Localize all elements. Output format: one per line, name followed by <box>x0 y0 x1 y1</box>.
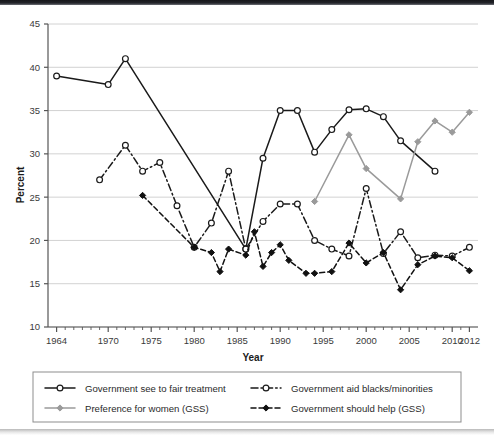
data-point-0-10 <box>363 106 369 112</box>
data-point-2-0 <box>312 198 318 204</box>
y-tick-label-15: 15 <box>29 278 40 289</box>
scan-artifact-top-band <box>0 0 494 5</box>
series-line-2 <box>315 112 470 201</box>
chart-figure: 1015202530354045 19641970197519801985199… <box>0 0 494 435</box>
x-tick-label-1990: 1990 <box>270 335 291 346</box>
data-point-0-11 <box>381 114 387 120</box>
data-point-3-4 <box>226 246 232 252</box>
legend-label-0: Government see to fair treatment <box>85 383 226 394</box>
data-point-1-7 <box>226 168 232 174</box>
y-axis-title: Percent <box>15 166 26 203</box>
data-point-0-2 <box>123 56 129 62</box>
legend-marker-1 <box>263 385 269 391</box>
data-point-0-9 <box>346 107 352 113</box>
data-point-1-9 <box>260 218 266 224</box>
data-point-3-5 <box>243 252 249 258</box>
data-point-1-11 <box>295 201 301 207</box>
x-axis-title: Year <box>242 352 263 363</box>
x-tick-labels-group: 1964197019751980198519901995200020052010… <box>46 335 480 346</box>
data-point-1-18 <box>415 255 421 261</box>
legend-group: Government see to fair treatmentGovernme… <box>33 372 461 422</box>
x-tick-label-2012: 2012 <box>459 335 480 346</box>
data-point-0-1 <box>105 82 111 88</box>
data-point-0-8 <box>329 127 335 133</box>
data-point-1-17 <box>398 229 404 235</box>
data-point-0-6 <box>295 108 301 114</box>
data-point-0-4 <box>260 155 266 161</box>
y-tick-label-35: 35 <box>29 105 40 116</box>
data-point-0-0 <box>54 73 60 79</box>
data-point-3-6 <box>251 229 257 235</box>
legend-box <box>33 372 461 422</box>
x-tick-label-2005: 2005 <box>399 335 420 346</box>
y-tick-label-10: 10 <box>29 321 40 332</box>
legend-label-2: Preference for women (GSS) <box>85 403 209 414</box>
data-point-3-13 <box>329 268 335 274</box>
data-point-1-10 <box>277 201 283 207</box>
legend-label-3: Government should help (GSS) <box>291 403 425 414</box>
x-tick-label-1980: 1980 <box>184 335 205 346</box>
data-point-1-13 <box>329 246 335 252</box>
data-point-3-11 <box>303 270 309 276</box>
data-point-0-5 <box>277 108 283 114</box>
data-point-1-6 <box>209 220 215 226</box>
series-2 <box>312 109 473 204</box>
legend-label-1: Government aid blacks/minorities <box>291 383 433 394</box>
x-tick-label-1964: 1964 <box>46 335 67 346</box>
data-point-1-2 <box>140 168 146 174</box>
y-tick-label-25: 25 <box>29 192 40 203</box>
series-3 <box>140 192 473 293</box>
series-1 <box>97 142 473 260</box>
line-chart-plot: 1015202530354045 19641970197519801985199… <box>0 0 494 435</box>
data-point-1-3 <box>157 160 163 166</box>
data-point-1-1 <box>123 142 129 148</box>
data-point-1-0 <box>97 177 103 183</box>
x-tick-label-2000: 2000 <box>356 335 377 346</box>
data-point-1-14 <box>346 253 352 259</box>
data-point-1-12 <box>312 238 318 244</box>
y-tick-label-45: 45 <box>29 18 40 29</box>
data-point-0-12 <box>398 138 404 144</box>
x-tick-label-1985: 1985 <box>227 335 248 346</box>
data-point-2-1 <box>346 132 352 138</box>
gridlines-group <box>48 24 478 327</box>
data-point-1-4 <box>174 203 180 209</box>
x-tick-label-1975: 1975 <box>141 335 162 346</box>
y-tick-label-40: 40 <box>29 62 40 73</box>
data-point-3-12 <box>312 270 318 276</box>
y-tick-label-30: 30 <box>29 148 40 159</box>
y-tick-label-20: 20 <box>29 235 40 246</box>
data-point-1-15 <box>363 186 369 192</box>
data-point-3-3 <box>217 268 223 274</box>
x-tick-label-1995: 1995 <box>313 335 334 346</box>
y-tick-labels-group: 1015202530354045 <box>29 18 40 332</box>
legend-marker-0 <box>57 385 63 391</box>
data-point-0-13 <box>432 168 438 174</box>
axis-group <box>44 24 478 332</box>
x-tick-label-1970: 1970 <box>98 335 119 346</box>
data-series-group <box>54 56 473 293</box>
data-point-0-7 <box>312 149 318 155</box>
data-point-1-21 <box>467 244 473 250</box>
scan-artifact-bottom-band <box>0 429 494 435</box>
data-point-3-2 <box>208 249 214 255</box>
